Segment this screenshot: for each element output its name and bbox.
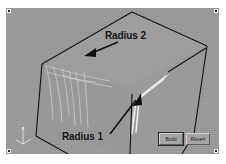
figure-container: Radius 2 Radius 1 Build Revert	[0, 0, 226, 164]
build-button[interactable]: Build	[159, 133, 183, 145]
axis-y-icon	[23, 139, 31, 144]
selection-handle-top-left[interactable]	[7, 9, 11, 13]
callout-label-radius-1: Radius 1	[62, 131, 103, 142]
revert-button[interactable]: Revert	[186, 133, 210, 145]
selection-handle-bottom-right[interactable]	[214, 149, 218, 153]
callout-label-radius-2: Radius 2	[105, 30, 146, 41]
cad-viewport[interactable]: Radius 2 Radius 1 Build Revert	[6, 8, 219, 154]
coordinate-axis-triad-icon	[14, 124, 34, 146]
dialog-button-bar: Build Revert	[159, 133, 210, 145]
selection-handle-bottom-left[interactable]	[7, 149, 11, 153]
selection-handle-top-right[interactable]	[214, 9, 218, 13]
axis-x-icon	[16, 140, 23, 144]
